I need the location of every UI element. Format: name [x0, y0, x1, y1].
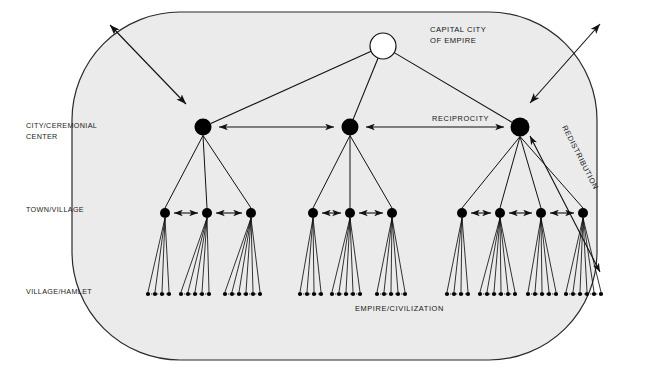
- capital-label-line2: OF EMPIRE: [430, 36, 476, 45]
- hamlet-node: [358, 292, 362, 296]
- hamlet-node: [230, 292, 234, 296]
- hamlet-node: [466, 292, 470, 296]
- hamlet-node: [382, 292, 386, 296]
- reciprocity-label: RECIPROCITY: [432, 114, 489, 123]
- hamlet-node: [258, 292, 262, 296]
- town-node: [387, 208, 397, 218]
- tier-town-line1: TOWN/VILLAGE: [26, 205, 84, 214]
- town-node: [345, 208, 355, 218]
- tier-city-line1: CITY/CEREMONIAL: [26, 121, 97, 130]
- hamlet-node: [389, 292, 393, 296]
- city-node: [195, 119, 212, 136]
- hamlet-node: [403, 292, 407, 296]
- hamlet-node: [179, 292, 183, 296]
- hamlet-node: [153, 292, 157, 296]
- hamlet-node: [223, 292, 227, 296]
- hamlet-node: [298, 292, 302, 296]
- hamlet-node: [485, 292, 489, 296]
- city-node: [342, 119, 359, 136]
- empire-label: EMPIRE/CIVILIZATION: [355, 304, 444, 313]
- town-node: [202, 208, 212, 218]
- hamlet-node: [452, 292, 456, 296]
- hamlet-node: [445, 292, 449, 296]
- hamlet-node: [592, 292, 596, 296]
- town-node: [457, 208, 467, 218]
- hamlet-node: [146, 292, 150, 296]
- hamlet-node: [200, 292, 204, 296]
- tier-hamlet-line1: VILLAGE/HAMLET: [26, 287, 92, 296]
- city-node: [511, 118, 530, 137]
- hamlet-node: [564, 292, 568, 296]
- town-node: [160, 208, 170, 218]
- hamlet-node: [526, 292, 530, 296]
- hamlet-node: [244, 292, 248, 296]
- hamlet-node: [533, 292, 537, 296]
- hamlet-node: [344, 292, 348, 296]
- hamlet-node: [492, 292, 496, 296]
- hamlet-node: [578, 292, 582, 296]
- town-node: [536, 208, 546, 218]
- hamlet-node: [547, 292, 551, 296]
- tier-city-line2: CENTER: [26, 132, 58, 141]
- hamlet-node: [193, 292, 197, 296]
- hamlet-node: [585, 292, 589, 296]
- hamlet-node: [237, 292, 241, 296]
- settlement-hierarchy-svg: CITY/CEREMONIALCENTERTOWN/VILLAGEVILLAGE…: [0, 0, 667, 392]
- hamlet-node: [167, 292, 171, 296]
- hamlet-node: [375, 292, 379, 296]
- hamlet-node: [330, 292, 334, 296]
- hamlet-node: [499, 292, 503, 296]
- hamlet-node: [319, 292, 323, 296]
- hamlet-node: [312, 292, 316, 296]
- town-node: [246, 208, 256, 218]
- capital-label-line1: CAPITAL CITY: [430, 25, 486, 34]
- hamlet-node: [599, 292, 603, 296]
- hamlet-node: [337, 292, 341, 296]
- empire-boundary: [72, 12, 597, 360]
- diagram-canvas: CITY/CEREMONIALCENTERTOWN/VILLAGEVILLAGE…: [0, 0, 667, 392]
- hamlet-node: [459, 292, 463, 296]
- town-node: [578, 208, 588, 218]
- hamlet-node: [506, 292, 510, 296]
- hamlet-node: [540, 292, 544, 296]
- hamlet-node: [186, 292, 190, 296]
- hamlet-node: [554, 292, 558, 296]
- hamlet-node: [305, 292, 309, 296]
- hamlet-node: [251, 292, 255, 296]
- hamlet-node: [160, 292, 164, 296]
- town-node: [308, 208, 318, 218]
- hamlet-node: [351, 292, 355, 296]
- hamlet-node: [513, 292, 517, 296]
- capital-city-node: [370, 33, 396, 59]
- empire-boundary-shape: [72, 12, 597, 360]
- town-node: [495, 208, 505, 218]
- capital-city-node: [370, 33, 396, 59]
- hamlet-node: [207, 292, 211, 296]
- hamlet-node: [478, 292, 482, 296]
- hamlet-node: [396, 292, 400, 296]
- hamlet-node: [571, 292, 575, 296]
